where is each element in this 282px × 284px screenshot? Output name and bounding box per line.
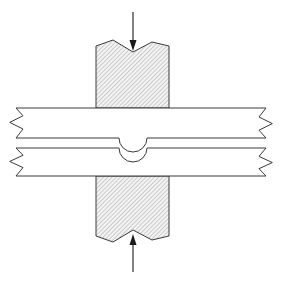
bottom-arrow-head: [130, 234, 137, 245]
top-arrow-head: [130, 40, 137, 51]
diagram-canvas: [0, 0, 282, 284]
upper-plate-group: [10, 108, 273, 152]
load-arrow-top: [130, 12, 137, 51]
vertical-bar-upper-segment: [96, 40, 169, 108]
lower-horizontal-plate: [10, 148, 273, 176]
load-arrow-bottom: [130, 234, 137, 272]
engineering-diagram-svg: [0, 0, 282, 284]
upper-horizontal-plate: [10, 108, 273, 152]
vertical-bar-lower-segment: [96, 176, 169, 242]
lower-plate-group: [10, 148, 273, 176]
